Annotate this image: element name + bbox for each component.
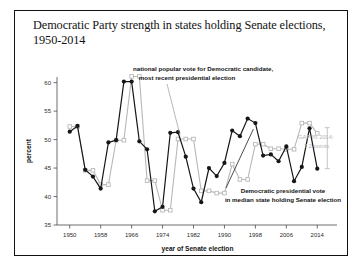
median-state-marker xyxy=(191,186,195,190)
median-state-marker xyxy=(215,174,219,178)
y-axis-tick-label: 50 xyxy=(44,137,51,143)
median-state-marker xyxy=(199,200,203,204)
median-state-marker xyxy=(130,79,134,83)
median-state-marker xyxy=(315,167,319,171)
median-state-marker xyxy=(269,152,273,156)
national-vote-marker xyxy=(254,142,258,146)
y-axis-tick-label: 35 xyxy=(44,222,51,228)
median-state-marker xyxy=(184,155,188,159)
median-state-marker xyxy=(307,126,311,130)
national-vote-marker xyxy=(192,137,196,141)
median-state-marker xyxy=(222,161,226,165)
national-vote-marker xyxy=(215,191,219,195)
national-vote-marker xyxy=(277,147,281,151)
national-vote-marker xyxy=(68,125,72,129)
national-annotation-line-2: most recent presidential election xyxy=(139,74,236,81)
national-vote-marker xyxy=(199,189,203,193)
median-state-marker xyxy=(114,138,118,142)
median-state-marker xyxy=(246,116,250,120)
x-axis-tick-label: 1966 xyxy=(125,232,139,238)
median-state-marker xyxy=(99,186,103,190)
median-state-marker xyxy=(261,153,265,157)
x-axis-tick-label: 1982 xyxy=(187,232,201,238)
x-axis-tick-label: 1958 xyxy=(94,232,108,238)
median-state-marker xyxy=(68,130,72,134)
median-state-marker xyxy=(75,124,79,128)
gap-label-line-1: GAP IN 2014: xyxy=(298,134,334,140)
median-state-marker xyxy=(284,144,288,148)
national-vote-marker xyxy=(261,142,265,146)
x-axis-tick-label: 2006 xyxy=(280,232,294,238)
national-vote-marker xyxy=(184,137,188,141)
median-state-marker xyxy=(253,121,257,125)
national-vote-marker xyxy=(223,191,227,195)
y-axis-label: percent xyxy=(25,138,33,163)
national-vote-marker xyxy=(238,178,242,182)
y-axis-tick-label: 45 xyxy=(44,165,51,171)
national-vote-marker xyxy=(91,169,95,173)
x-axis-tick-label: 1998 xyxy=(249,232,263,238)
y-axis-tick-label: 55 xyxy=(44,108,51,114)
national-annotation-leader xyxy=(167,84,180,135)
median-state-marker xyxy=(276,159,280,163)
national-vote-marker xyxy=(292,147,296,151)
x-axis-tick-label: 1990 xyxy=(218,232,232,238)
median-state-marker xyxy=(300,165,304,169)
national-vote-marker xyxy=(145,179,149,183)
y-axis-tick-label: 60 xyxy=(44,80,51,86)
national-vote-marker xyxy=(130,75,134,79)
national-vote-marker xyxy=(269,147,273,151)
national-vote-marker xyxy=(161,208,165,212)
x-axis-tick-label: 1974 xyxy=(156,232,170,238)
median-state-marker xyxy=(207,166,211,170)
median-state-marker xyxy=(83,168,87,172)
national-vote-marker xyxy=(207,189,211,193)
median-state-marker xyxy=(168,131,172,135)
national-annotation-line-1: national popular vote for Democratic can… xyxy=(133,65,274,72)
x-axis-label: year of Senate election xyxy=(162,245,234,253)
national-vote-marker xyxy=(246,178,250,182)
median-state-marker xyxy=(292,179,296,183)
gap-label-line-2: 7.2 points xyxy=(304,143,329,149)
median-annotation-line-1: Democratic presidential vote xyxy=(241,187,326,194)
median-state-marker xyxy=(137,139,141,143)
national-vote-marker xyxy=(168,208,172,212)
median-state-marker xyxy=(91,175,95,179)
figure-frame: Democratic Party strength in states hold… xyxy=(14,10,348,256)
chart-plot: 3540455055601950195819661974198219901998… xyxy=(15,11,349,257)
x-axis-tick-label: 1950 xyxy=(63,232,77,238)
median-annotation-line-2: in median state holding Senate election xyxy=(225,196,341,203)
x-axis-tick-label: 2014 xyxy=(311,232,325,238)
national-vote-marker xyxy=(300,121,304,125)
median-state-marker xyxy=(145,147,149,151)
median-state-marker xyxy=(122,79,126,83)
national-vote-marker xyxy=(230,162,234,166)
national-vote-marker xyxy=(153,179,157,183)
median-state-marker xyxy=(106,140,110,144)
median-state-marker xyxy=(230,128,234,132)
median-state-marker xyxy=(153,209,157,213)
national-vote-marker xyxy=(308,121,312,125)
median-state-marker xyxy=(160,205,164,209)
national-vote-marker xyxy=(122,138,126,142)
y-axis-tick-label: 40 xyxy=(44,194,51,200)
national-vote-marker xyxy=(107,183,111,187)
median-state-marker xyxy=(238,134,242,138)
